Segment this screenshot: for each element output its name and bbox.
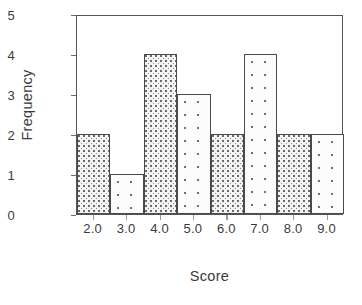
bar-8.0 — [277, 134, 310, 214]
x-tick-mark-2.0 — [93, 215, 94, 220]
y-tick-label-4: 4 — [0, 49, 15, 62]
y-tick-label-0: 0 — [0, 209, 15, 222]
bar-9.0 — [311, 134, 344, 214]
x-tick-mark-3.0 — [126, 215, 127, 220]
plot-area — [76, 15, 343, 215]
bar-3.0 — [110, 174, 143, 214]
x-axis-title: Score — [76, 268, 343, 284]
x-tick-mark-8.0 — [293, 215, 294, 220]
y-axis-title: Frequency — [19, 45, 35, 165]
bar-7.0 — [244, 54, 277, 214]
y-tick-mark-0 — [71, 215, 76, 216]
y-tick-label-3: 3 — [0, 89, 15, 102]
x-tick-mark-9.0 — [327, 215, 328, 220]
bars-layer — [77, 16, 342, 214]
x-tick-mark-5.0 — [193, 215, 194, 220]
bar-5.0 — [177, 94, 210, 214]
bar-2.0 — [77, 134, 110, 214]
x-tick-mark-6.0 — [226, 215, 227, 220]
bar-4.0 — [144, 54, 177, 214]
y-tick-label-1: 1 — [0, 169, 15, 182]
y-tick-label-5: 5 — [0, 9, 15, 22]
bar-6.0 — [211, 134, 244, 214]
x-tick-mark-4.0 — [160, 215, 161, 220]
x-tick-mark-7.0 — [260, 215, 261, 220]
y-tick-label-2: 2 — [0, 129, 15, 142]
histogram-figure: 5 4 3 2 1 0 2.0 — [0, 0, 362, 305]
x-tick-label-9.0: 9.0 — [305, 222, 349, 235]
